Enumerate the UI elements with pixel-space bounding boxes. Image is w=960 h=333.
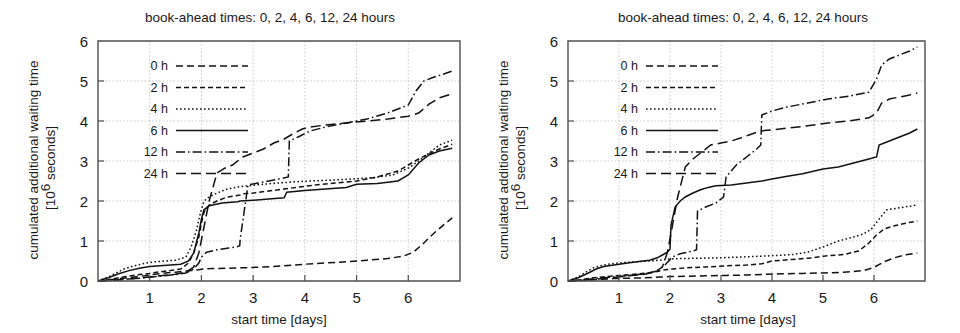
x-tick-label: 3 (717, 289, 725, 306)
chart-panel-left: book-ahead times: 0, 2, 4, 6, 12, 24 hou… (0, 0, 480, 333)
legend-left[interactable]: 0 h2 h4 h6 h12 h24 h (144, 59, 248, 181)
y-tick-label: 2 (80, 193, 88, 210)
x-tick-label: 2 (666, 289, 674, 306)
y-label-exponent-left: 6 (38, 184, 53, 192)
plot-title-left: book-ahead times: 0, 2, 4, 6, 12, 24 hou… (145, 10, 395, 25)
legend-label-4h: 4 h (621, 102, 638, 116)
x-axis-label-group-right: start time [days] (700, 312, 795, 327)
y-axis-label-line1-right: cumulated additional waiting time (496, 61, 511, 260)
y-label-suffix-left: seconds] (43, 126, 58, 184)
chart-svg-right: book-ahead times: 0, 2, 4, 6, 12, 24 hou… (480, 0, 960, 333)
y-tick-label: 1 (550, 233, 558, 250)
y-axis-label-line2-right: [106 seconds] (508, 126, 528, 210)
series-line-24h (98, 94, 452, 281)
legend-label-4h: 4 h (151, 102, 168, 116)
x-tick-label: 6 (404, 289, 412, 306)
y-tick-label: 0 (80, 273, 88, 290)
y-tick-label: 3 (550, 153, 558, 170)
chart-panel-right: book-ahead times: 0, 2, 4, 6, 12, 24 hou… (480, 0, 960, 333)
x-tick-label: 5 (819, 289, 827, 306)
x-axis-label-left: start time [days] (231, 312, 326, 327)
grid-group-left (98, 41, 460, 281)
y-axis-label-line1-left: cumulated additional waiting time (26, 61, 41, 260)
figure-row: book-ahead times: 0, 2, 4, 6, 12, 24 hou… (0, 0, 960, 333)
y-tick-label: 0 (550, 273, 558, 290)
y-tick-label: 1 (80, 233, 88, 250)
y-axis-label-right: cumulated additional waiting time [106 s… (496, 61, 528, 260)
series-line-0h (98, 218, 452, 281)
x-tick-label: 4 (768, 289, 776, 306)
series-line-24h (568, 93, 917, 281)
y-tick-label: 4 (80, 113, 88, 130)
legend-label-24h: 24 h (614, 167, 638, 181)
legend-label-6h: 6 h (151, 124, 168, 138)
ticks-group-left: 1234560123456 (80, 33, 413, 306)
y-axis-label-line2-left: [106 seconds] (38, 126, 58, 210)
grid-group-right (568, 41, 925, 281)
legend-right[interactable]: 0 h2 h4 h6 h12 h24 h (614, 59, 718, 181)
y-tick-label: 2 (550, 193, 558, 210)
chart-svg-left: book-ahead times: 0, 2, 4, 6, 12, 24 hou… (0, 0, 480, 333)
x-tick-label: 5 (352, 289, 360, 306)
x-tick-label: 1 (615, 289, 623, 306)
legend-label-2h: 2 h (151, 81, 168, 95)
y-tick-label: 5 (550, 73, 558, 90)
y-tick-label: 4 (550, 113, 558, 130)
x-tick-label: 4 (301, 289, 309, 306)
x-tick-label: 2 (197, 289, 205, 306)
y-label-prefix-right: [10 (513, 191, 528, 210)
legend-label-0h: 0 h (151, 59, 168, 73)
x-tick-label: 3 (249, 289, 257, 306)
y-label-prefix-left: [10 (43, 191, 58, 210)
x-tick-label: 1 (146, 289, 154, 306)
y-tick-label: 6 (550, 33, 558, 50)
legend-label-6h: 6 h (621, 124, 638, 138)
y-tick-label: 3 (80, 153, 88, 170)
plot-title-group-right: book-ahead times: 0, 2, 4, 6, 12, 24 hou… (618, 10, 868, 25)
series-line-2h (98, 144, 452, 281)
ticks-group-right: 1234560123456 (550, 33, 879, 306)
legend-label-12h: 12 h (614, 145, 638, 159)
y-label-suffix-right: seconds] (513, 126, 528, 184)
y-tick-label: 6 (80, 33, 88, 50)
legend-label-24h: 24 h (144, 167, 168, 181)
series-line-2h (568, 221, 917, 281)
legend-label-0h: 0 h (621, 59, 638, 73)
x-tick-label: 6 (870, 289, 878, 306)
plot-title-right: book-ahead times: 0, 2, 4, 6, 12, 24 hou… (618, 10, 868, 25)
legend-label-2h: 2 h (621, 81, 638, 95)
legend-label-12h: 12 h (144, 145, 168, 159)
y-tick-label: 5 (80, 73, 88, 90)
y-axis-label-left: cumulated additional waiting time [106 s… (26, 61, 58, 260)
plot-title-group-left: book-ahead times: 0, 2, 4, 6, 12, 24 hou… (145, 10, 395, 25)
y-label-exponent-right: 6 (508, 184, 523, 192)
x-axis-label-right: start time [days] (700, 312, 795, 327)
x-axis-label-group-left: start time [days] (231, 312, 326, 327)
